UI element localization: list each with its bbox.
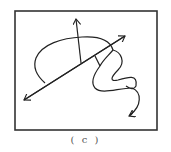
connector-segment bbox=[95, 56, 100, 66]
figure-caption: ( c ) bbox=[0, 134, 171, 145]
normal-arrow bbox=[76, 19, 81, 63]
blob-curve bbox=[35, 37, 113, 83]
diagram-canvas bbox=[0, 0, 171, 152]
squiggle-join bbox=[100, 50, 113, 66]
squiggle-curve bbox=[93, 50, 140, 115]
diagram-figure: ( c ) bbox=[0, 0, 171, 152]
